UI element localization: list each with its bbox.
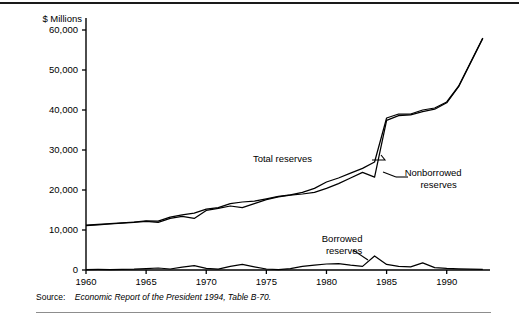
x-tick-label: 1960 [75,276,96,287]
y-tick-label: 20,000 [49,184,78,195]
series-line-nonborrowed-reserves [86,38,483,225]
figure-container: 010,00020,00030,00040,00050,00060,000 19… [0,0,519,321]
series-line-borrowed-reserves [86,256,483,270]
source-citation: Economic Report of the President 1994, T… [75,292,271,302]
source-label: Source: [36,292,65,302]
annotation-label: reserves [326,245,363,256]
x-tick-label: 1980 [316,276,337,287]
annotation-label: reserves [420,179,457,190]
x-axis-tick-labels: 1960196519701975198019851990 [75,276,457,287]
y-axis-title: $ Millions [42,13,82,24]
annotation-label: Total reserves [253,153,312,164]
x-tick-label: 1990 [436,276,457,287]
y-tick-label: 0 [73,264,78,275]
line-chart: 010,00020,00030,00040,00050,00060,000 19… [0,0,519,321]
series-annotations: Total reservesNonborrowedreservesBorrowe… [253,153,462,256]
y-axis-tick-labels: 010,00020,00030,00040,00050,00060,000 [49,24,78,275]
y-tick-label: 30,000 [49,144,78,155]
y-tick-label: 60,000 [49,24,78,35]
x-tick-label: 1965 [136,276,157,287]
y-tick-label: 50,000 [49,64,78,75]
series-line-total-reserves [86,38,483,225]
y-tick-label: 40,000 [49,104,78,115]
x-tick-label: 1975 [256,276,277,287]
source-note: Source: Economic Report of the President… [36,292,271,302]
y-tick-label: 10,000 [49,224,78,235]
x-tick-label: 1985 [376,276,397,287]
annotation-label: Borrowed [322,233,363,244]
annotation-label: Nonborrowed [405,167,462,178]
x-tick-label: 1970 [196,276,217,287]
